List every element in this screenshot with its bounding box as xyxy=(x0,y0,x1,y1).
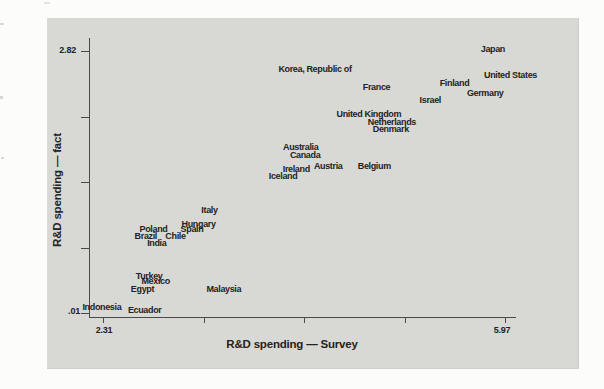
y-tick-mark xyxy=(81,51,89,52)
country-label: Egypt xyxy=(131,284,154,293)
y-max-tick-label: 2.82 xyxy=(36,45,76,55)
country-label: France xyxy=(363,83,390,92)
country-label: Belgium xyxy=(358,161,391,170)
x-axis-title: R&D spending — Survey xyxy=(226,338,357,350)
country-label: Canada xyxy=(290,150,320,159)
country-label: Finland xyxy=(440,78,470,87)
country-label: Ecuador xyxy=(128,306,162,315)
page-edge-artifact xyxy=(44,2,50,4)
country-label: Japan xyxy=(481,45,505,54)
x-min-tick-label: 2.31 xyxy=(88,325,120,335)
country-label: Germany xyxy=(467,89,504,98)
figure-page: R&D spending — fact R&D spending — Surve… xyxy=(0,0,604,389)
country-label: Iceland xyxy=(269,171,298,180)
country-label: United States xyxy=(484,71,537,80)
country-label: India xyxy=(147,239,166,248)
x-tick-mark xyxy=(505,318,506,323)
y-tick-mark xyxy=(81,182,89,183)
country-label: Italy xyxy=(201,206,217,215)
country-label: Indonesia xyxy=(82,302,121,311)
y-tick-mark xyxy=(81,313,89,314)
x-tick-mark xyxy=(405,318,406,323)
y-tick-mark xyxy=(81,117,89,118)
x-max-tick-label: 5.97 xyxy=(486,325,518,335)
x-tick-mark xyxy=(304,318,305,323)
country-label: Korea, Republic of xyxy=(278,64,351,73)
country-label: Austria xyxy=(314,161,343,170)
country-label: Israel xyxy=(420,96,441,105)
page-edge-artifact xyxy=(0,23,4,25)
page-edge-artifact xyxy=(0,96,3,99)
y-min-tick-label: .01 xyxy=(40,306,80,316)
y-axis-line xyxy=(89,38,90,318)
country-label: Denmark xyxy=(373,125,409,134)
country-label: Chile xyxy=(165,231,185,240)
y-tick-mark xyxy=(81,248,89,249)
x-tick-mark xyxy=(204,318,205,323)
x-tick-mark xyxy=(103,318,104,323)
page-edge-artifact xyxy=(1,157,4,159)
x-axis-line xyxy=(89,317,516,318)
y-axis-title: R&D spending — fact xyxy=(51,133,63,247)
country-label: Malaysia xyxy=(206,284,241,293)
